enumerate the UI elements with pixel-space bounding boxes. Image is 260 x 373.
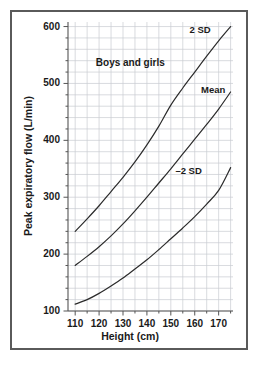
chart-annotation-boys-and-girls: Boys and girls <box>96 57 165 68</box>
curve-mean <box>75 92 230 266</box>
y-tick-label: 400 <box>26 134 60 145</box>
curve-label-2sd: 2 SD <box>189 24 210 35</box>
x-axis-title: Height (cm) <box>0 330 260 342</box>
y-axis-ticks <box>64 27 69 311</box>
curve--2-sd <box>75 168 230 305</box>
y-tick-label: 500 <box>26 77 60 88</box>
grid-lines-horizontal <box>68 27 233 311</box>
curve-label-negative-2sd: –2 SD <box>175 165 201 176</box>
x-axis-ticks <box>75 311 230 316</box>
x-tick-label: 170 <box>204 318 234 329</box>
y-axis-title: Peak expiratory flow (L/min) <box>22 76 34 256</box>
y-tick-label: 200 <box>26 248 60 259</box>
curve-label-mean: Mean <box>201 84 225 95</box>
y-tick-label: 300 <box>26 191 60 202</box>
y-tick-label: 100 <box>26 305 60 316</box>
figure-container: Peak expiratory flow (L/min) Height (cm)… <box>0 0 260 373</box>
data-curves <box>75 27 230 305</box>
y-tick-label: 600 <box>26 21 60 32</box>
